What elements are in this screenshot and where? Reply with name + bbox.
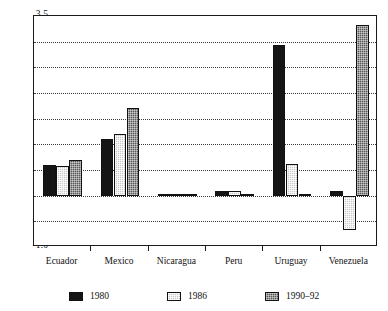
bar bbox=[330, 191, 343, 196]
x-axis-tick bbox=[262, 246, 263, 251]
gridline bbox=[34, 93, 376, 94]
bar bbox=[158, 194, 171, 196]
bar bbox=[101, 139, 114, 195]
bar bbox=[171, 194, 184, 196]
x-axis-tick bbox=[205, 246, 206, 251]
legend-label: 1990–92 bbox=[286, 291, 319, 301]
bar bbox=[127, 108, 140, 195]
x-axis-category-label: Peru bbox=[225, 256, 242, 267]
legend-label: 1980 bbox=[90, 291, 109, 301]
bar bbox=[114, 134, 127, 196]
x-axis-category-label: Venezuela bbox=[329, 256, 368, 267]
x-axis-category-label: Ecuador bbox=[46, 256, 78, 267]
x-axis-tick bbox=[320, 246, 321, 251]
x-axis-tick bbox=[148, 246, 149, 251]
gridline bbox=[34, 42, 376, 43]
bar bbox=[299, 194, 312, 196]
bar bbox=[56, 166, 69, 196]
bar bbox=[228, 191, 241, 196]
legend-label: 1986 bbox=[188, 291, 207, 301]
bar bbox=[241, 194, 254, 196]
legend-item: 1986 bbox=[167, 291, 207, 301]
x-axis-category-label: Uruguay bbox=[274, 256, 307, 267]
gridline bbox=[34, 221, 376, 222]
bar bbox=[273, 45, 286, 195]
x-axis-tick bbox=[90, 246, 91, 251]
bar bbox=[69, 160, 82, 196]
x-axis-category-label: Nicaragua bbox=[157, 256, 196, 267]
bar-chart: 3.53.02.52.01.51.00.50.0-0.5-1.0 Ecuador… bbox=[0, 0, 388, 311]
legend-swatch bbox=[69, 292, 83, 301]
bar bbox=[184, 194, 197, 196]
zero-line bbox=[34, 196, 376, 197]
x-axis-category-label: Mexico bbox=[104, 256, 133, 267]
gridline bbox=[34, 119, 376, 120]
bar bbox=[43, 165, 56, 196]
chart-legend: 198019861990–92 bbox=[0, 288, 388, 304]
bar bbox=[356, 25, 369, 195]
legend-swatch bbox=[265, 292, 279, 301]
bar bbox=[343, 196, 356, 230]
legend-item: 1980 bbox=[69, 291, 109, 301]
legend-item: 1990–92 bbox=[265, 291, 319, 301]
legend-swatch bbox=[167, 292, 181, 301]
bar bbox=[286, 164, 299, 196]
gridline bbox=[34, 67, 376, 68]
bar bbox=[215, 191, 228, 196]
gridline bbox=[34, 170, 376, 171]
gridline bbox=[34, 144, 376, 145]
plot-area bbox=[33, 15, 377, 246]
